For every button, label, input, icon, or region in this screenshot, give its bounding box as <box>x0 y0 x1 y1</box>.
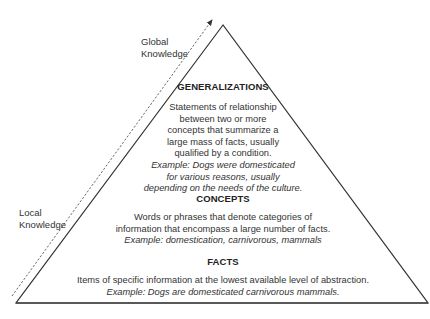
level-generalizations: GENERALIZATIONS Statements of relationsh… <box>8 81 430 195</box>
description-line: Statements of relationship <box>8 102 430 114</box>
level-heading: GENERALIZATIONS <box>8 81 430 93</box>
description-line: Words or phrases that denote categories … <box>8 212 430 224</box>
level-description: Words or phrases that denote categories … <box>8 212 430 247</box>
description-line: Items of specific information at the low… <box>8 275 430 287</box>
example-line: Example: Dogs are domesticated carnivoro… <box>8 287 430 299</box>
description-line: qualified by a condition. <box>8 148 430 160</box>
description-line: between two or more <box>8 114 430 126</box>
description-line: large mass of facts, usually <box>8 137 430 149</box>
level-heading: CONCEPTS <box>8 193 430 205</box>
example-line: Example: domestication, carnivorous, mam… <box>8 235 430 247</box>
level-description: Statements of relationship between two o… <box>8 102 430 195</box>
example-line: Example: Dogs were domesticated <box>8 160 430 172</box>
level-heading: FACTS <box>8 256 430 268</box>
description-line: information that encompass a large numbe… <box>8 224 430 236</box>
global-label-line: Global <box>141 36 188 48</box>
level-facts: FACTS Items of specific information at t… <box>8 256 430 298</box>
global-label-line: Knowledge <box>141 48 188 60</box>
description-line: concepts that summarize a <box>8 125 430 137</box>
level-description: Items of specific information at the low… <box>8 275 430 298</box>
example-line: for various reasons, usually <box>8 172 430 184</box>
level-concepts: CONCEPTS Words or phrases that denote ca… <box>8 193 430 247</box>
global-knowledge-label: Global Knowledge <box>141 36 188 59</box>
